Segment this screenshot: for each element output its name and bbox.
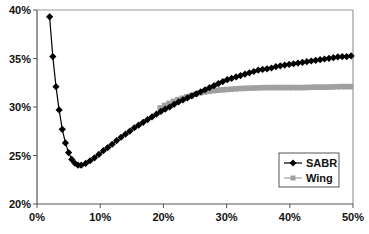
x-tick-label: 40% — [279, 211, 301, 223]
x-tick-label: 30% — [216, 211, 238, 223]
x-tick-label: 10% — [89, 211, 111, 223]
x-tick-label: 0% — [29, 211, 45, 223]
series-sabr — [46, 13, 355, 169]
y-tick-label: 40% — [9, 4, 31, 16]
y-tick-label: 25% — [9, 150, 31, 162]
square-marker-icon — [291, 176, 296, 181]
x-tick-label: 20% — [152, 211, 174, 223]
series-layer — [46, 13, 355, 169]
legend: SABR Wing — [279, 153, 339, 187]
y-tick-label: 20% — [9, 198, 31, 210]
volatility-chart: 20%25%30%35%40% 0%10%20%30%40%50% SABR W… — [0, 0, 369, 234]
y-tick-label: 35% — [9, 53, 31, 65]
y-tick-label: 30% — [9, 101, 31, 113]
y-axis-ticks: 20%25%30%35%40% — [9, 4, 37, 210]
x-tick-label: 50% — [342, 211, 364, 223]
legend-label-sabr: SABR — [306, 157, 337, 169]
legend-label-wing: Wing — [306, 172, 333, 184]
x-axis-ticks: 0%10%20%30%40%50% — [29, 204, 364, 223]
